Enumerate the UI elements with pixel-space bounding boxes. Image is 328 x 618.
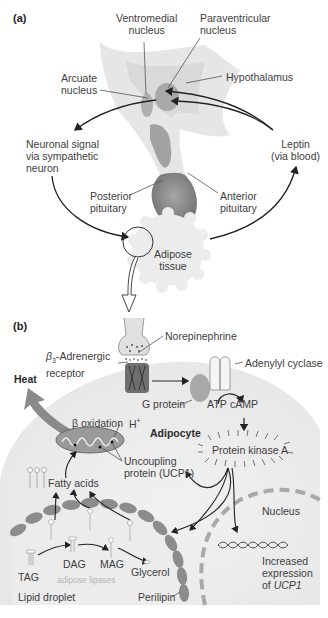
panel-a-label: (a) <box>13 12 26 24</box>
leptin-label: Leptin (via blood) <box>271 138 320 162</box>
dag-label: DAG <box>63 558 86 570</box>
uncoupling-protein-label: Uncoupling protein (UCP1) <box>124 455 194 479</box>
mag-label: MAG <box>100 558 124 570</box>
zoom-down-arrow <box>122 257 138 312</box>
label-line: via sympathetic <box>26 150 99 162</box>
label-text: -Adrenergic <box>56 350 110 362</box>
ventromedial-nucleus-label: Ventromedial nucleus <box>116 12 177 36</box>
norepinephrine-label: Norepinephrine <box>165 330 237 342</box>
label-line: Posterior <box>90 190 132 202</box>
label-line: of UCP1 <box>262 579 313 591</box>
h-plus-label: H+ <box>129 415 141 430</box>
label-line: neuron <box>26 162 99 174</box>
tag-label: TAG <box>18 571 39 583</box>
fatty-acids-label: Fatty acids <box>48 477 99 489</box>
diagram-artwork <box>0 0 328 618</box>
g-protein-label: G protein <box>142 398 185 410</box>
protein-kinase-a-label: Protein kinase A <box>212 444 288 456</box>
anterior-pituitary-label: Anterior pituitary <box>220 190 257 214</box>
label-line: Anterior <box>220 190 257 202</box>
lipid-droplet-label: Lipid droplet <box>18 591 75 603</box>
label-line: pituitary <box>220 202 257 214</box>
label-text: of <box>262 579 274 591</box>
atp-label: ATP <box>207 398 227 410</box>
beta3-adrenergic-receptor-shape <box>125 363 149 393</box>
label-line: nucleus <box>61 84 97 96</box>
label-line: nucleus <box>200 24 271 36</box>
ventromedial-nucleus-shape <box>141 93 153 117</box>
label-line: receptor <box>46 367 110 379</box>
gene-name: UCP1 <box>274 579 302 591</box>
label-line: expression <box>262 567 313 579</box>
glycerol-label: Glycerol <box>131 566 170 578</box>
beta-oxidation-label: β oxidation <box>72 417 123 429</box>
label-line: Increased <box>262 555 313 567</box>
neuron-terminal <box>119 318 150 361</box>
label-line: Leptin <box>271 138 320 150</box>
label-line: Ventromedial <box>116 12 177 24</box>
paraventricular-nucleus-label: Paraventricular nucleus <box>200 12 271 36</box>
adipose-lipases-label: adipose lipases <box>57 574 116 586</box>
adenylyl-cyclase-label: Adenylyl cyclase <box>245 357 323 369</box>
label-line: Neuronal signal <box>26 138 99 150</box>
label-line: Uncoupling <box>124 455 194 467</box>
label-line: β3-Adrenergic <box>46 350 110 367</box>
label-line: Arcuate <box>61 72 97 84</box>
label-line: tissue <box>154 260 192 272</box>
neuronal-signal-label: Neuronal signal via sympathetic neuron <box>26 138 99 174</box>
fatty-acid-icons <box>28 468 47 489</box>
superscript: + <box>137 417 141 424</box>
adipocyte-label: Adipocyte <box>150 427 201 439</box>
camp-label: cAMP <box>230 398 258 410</box>
beta3-adrenergic-receptor-label: β3-Adrenergic receptor <box>46 350 110 379</box>
panel-b-label: (b) <box>13 320 27 332</box>
adenylyl-cyclase-shape <box>210 357 230 390</box>
arcuate-nucleus-label: Arcuate nucleus <box>61 72 97 96</box>
paraventricular-nucleus-shape <box>155 83 179 111</box>
posterior-pituitary-label: Posterior pituitary <box>90 190 132 214</box>
adipose-tissue-label: Adipose tissue <box>154 248 192 272</box>
heat-label: Heat <box>14 373 37 385</box>
label-line: protein (UCP1) <box>124 467 194 479</box>
increased-expression-label: Increased expression of UCP1 <box>262 555 313 591</box>
leptin-thermogenesis-diagram: (a) Ventromedial nucleus Paraventricular… <box>0 0 328 618</box>
label-line: Paraventricular <box>200 12 271 24</box>
label-text: H <box>129 418 137 430</box>
label-line: nucleus <box>116 24 177 36</box>
label-line: Adipose <box>154 248 192 260</box>
mitochondrion-shape <box>56 427 124 453</box>
label-line: (via blood) <box>271 150 320 162</box>
hypothalamus-label: Hypothalamus <box>226 71 293 83</box>
label-line: pituitary <box>90 202 132 214</box>
perilipin-label: Perilipin <box>138 591 175 603</box>
nucleus-label: Nucleus <box>262 505 300 517</box>
